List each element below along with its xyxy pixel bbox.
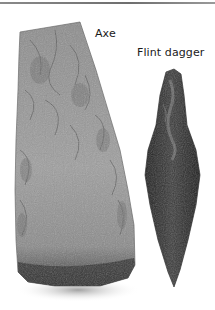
axe-label: Axe — [95, 28, 116, 39]
flint-dagger-label: Flint dagger — [137, 47, 204, 58]
flint-dagger-artifact — [145, 69, 200, 287]
axe-artifact — [15, 22, 135, 286]
